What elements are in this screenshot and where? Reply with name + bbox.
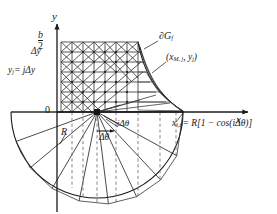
boundary-subscript: f	[171, 34, 173, 41]
x-i-theta-equation: = R[1 − cos(iΔθ)]	[182, 118, 252, 128]
node-label-leader	[152, 62, 166, 73]
y-j-label: yj= jΔy	[8, 66, 35, 76]
delta-y-label: Δy	[31, 47, 41, 57]
y-j-equation: = jΔy	[14, 65, 35, 75]
node-subscript-1: M, j	[173, 56, 183, 62]
y-axis-label: y	[52, 11, 57, 22]
b-over-2-numerator: b	[38, 30, 43, 40]
boundary-label: ∂Gf	[159, 31, 173, 42]
origin-label: 0	[45, 105, 50, 115]
i-delta-theta-label: iΔθ	[117, 119, 129, 128]
boundary-label-leader	[144, 41, 158, 49]
fan-rays-upper	[97, 95, 183, 112]
delta-theta-label: Δθ	[99, 133, 109, 143]
x-i-theta-formula: xi,θ= R[1 − cos(iΔθ)]	[172, 119, 252, 129]
figure-canvas: y x 0 b 2 Δy yj= jΔy ∂Gf (xM, j, yj) R Δ…	[0, 0, 277, 214]
node-middle: , y	[183, 52, 192, 62]
fan-chord-segments	[16, 112, 183, 204]
boundary-symbol: ∂G	[159, 30, 171, 41]
fan-center-node	[94, 109, 100, 115]
radius-label: R	[61, 127, 67, 137]
node-coordinate-label: (xM, j, yj)	[166, 53, 197, 63]
node-close-paren: )	[194, 52, 197, 62]
